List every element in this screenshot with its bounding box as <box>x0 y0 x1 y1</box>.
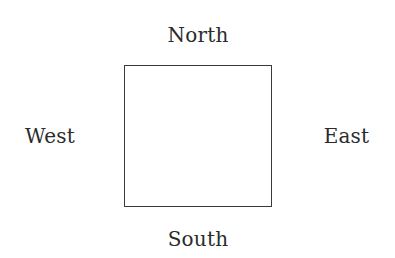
direction-label-east: East <box>298 126 395 146</box>
direction-label-west: West <box>0 126 100 146</box>
compass-diagram: North West East South <box>0 0 395 258</box>
direction-label-south: South <box>124 229 272 249</box>
direction-label-north: North <box>124 25 272 45</box>
center-square <box>124 65 272 207</box>
